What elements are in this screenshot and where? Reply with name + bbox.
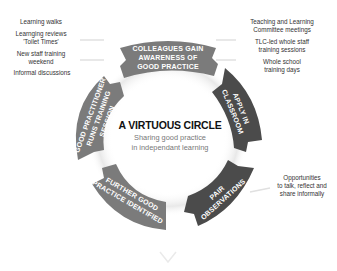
diagram-subtitle: Sharing good practice in independant lea… (108, 133, 232, 153)
arrow-down-icon (160, 252, 176, 262)
svg-text:COLLEAGUES GAIN: COLLEAGUES GAIN (132, 45, 203, 52)
diagram-title: A VIRTUOUS CIRCLE (108, 119, 232, 131)
subtitle-line-1: Sharing good practice (108, 133, 232, 143)
segment-label-colleagues: COLLEAGUES GAIN AWARENESS OF GOOD PRACTI… (132, 45, 203, 70)
svg-text:GOOD PRACTICE: GOOD PRACTICE (137, 63, 199, 70)
subtitle-line-2: in independant learning (108, 143, 232, 153)
svg-text:AWARENESS OF: AWARENESS OF (139, 54, 198, 61)
